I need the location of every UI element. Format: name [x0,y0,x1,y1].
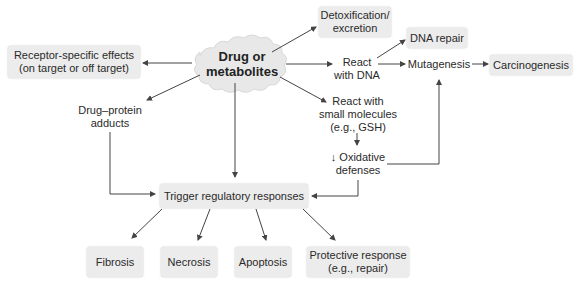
adducts-line1: Drug–protein [75,104,145,117]
drug-protein-adducts-node: Drug–protein adducts [75,104,145,130]
center-line1: Drug or [196,49,288,64]
detox-line1: Detoxification/ [320,9,389,22]
react-dna-line1: React [332,56,382,69]
receptor-line2: (on target or off target) [19,62,129,75]
center-line2: metabolites [196,64,288,79]
protective-line1: Protective response [309,249,406,262]
fibrosis-box: Fibrosis [87,247,143,277]
small-molecules-line3: (e.g., GSH) [316,121,400,134]
drug-or-metabolites-node: Drug or metabolites [196,49,288,79]
carcinogenesis-box: Carcinogenesis [490,55,572,75]
receptor-effects-box: Receptor-specific effects (on target or … [8,46,140,78]
apoptosis-label: Apoptosis [239,256,287,269]
oxidative-line2: defenses [328,164,388,177]
adducts-line2: adducts [75,117,145,130]
oxidative-line1: ↓ Oxidative [328,151,388,164]
react-with-dna-node: React with DNA [332,56,382,82]
trigger-label: Trigger regulatory responses [164,190,304,203]
fibrosis-label: Fibrosis [96,256,135,269]
dna-repair-box: DNA repair [407,28,467,48]
mutagenesis-label: Mutagenesis [407,58,471,71]
trigger-regulatory-responses-box: Trigger regulatory responses [160,184,308,208]
dna-repair-label: DNA repair [410,32,464,45]
apoptosis-box: Apoptosis [235,247,291,277]
oxidative-defenses-node: ↓ Oxidative defenses [328,151,388,177]
protective-line2: (e.g., repair) [328,262,388,275]
receptor-line1: Receptor-specific effects [14,49,134,62]
arrows-layer [0,0,579,284]
necrosis-box: Necrosis [161,247,217,277]
small-molecules-line2: small molecules [316,108,400,121]
necrosis-label: Necrosis [168,256,211,269]
small-molecules-line1: React with [316,95,400,108]
carcinogenesis-label: Carcinogenesis [493,59,569,72]
small-molecules-node: React with small molecules (e.g., GSH) [316,95,400,134]
detoxification-box: Detoxification/ excretion [319,7,391,37]
detox-line2: excretion [333,22,378,35]
protective-response-box: Protective response (e.g., repair) [307,247,409,277]
react-dna-line2: with DNA [332,69,382,82]
mutagenesis-node: Mutagenesis [407,58,471,71]
